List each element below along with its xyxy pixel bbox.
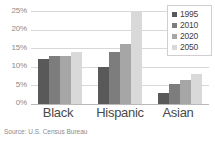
- legend-swatch-icon: [172, 23, 177, 28]
- bar: [98, 67, 109, 104]
- bar-chart: 25% 20% 15% 10% 5% 0% Black Hispanic Asi…: [0, 0, 215, 144]
- legend: 1995201020202050: [167, 5, 212, 56]
- legend-label: 2050: [180, 43, 198, 52]
- legend-swatch-icon: [172, 12, 177, 17]
- bar-group: [94, 11, 146, 104]
- category-label-black: Black: [27, 106, 89, 120]
- y-tick-label: 15%: [1, 44, 27, 52]
- legend-swatch-icon: [172, 45, 177, 50]
- bar: [158, 93, 169, 104]
- y-tick-label: 20%: [1, 25, 27, 33]
- bar: [109, 52, 120, 104]
- y-tick-label: 5%: [1, 81, 27, 89]
- legend-label: 2010: [180, 21, 198, 30]
- bar: [169, 84, 180, 104]
- bar: [60, 56, 71, 104]
- source-note: Source: U.S. Census Bureau: [4, 128, 87, 136]
- legend-label: 2020: [180, 32, 198, 41]
- legend-item[interactable]: 2050: [172, 42, 206, 52]
- bar-group: [34, 11, 86, 104]
- y-tick-label: 10%: [1, 62, 27, 70]
- category-label-asian: Asian: [148, 106, 208, 120]
- bar: [120, 44, 131, 104]
- bar: [71, 52, 82, 104]
- legend-item[interactable]: 2020: [172, 31, 206, 41]
- bar: [131, 11, 142, 104]
- legend-item[interactable]: 2010: [172, 20, 206, 30]
- bar: [191, 74, 202, 104]
- bar: [38, 59, 49, 104]
- legend-label: 1995: [180, 10, 198, 19]
- legend-item[interactable]: 1995: [172, 9, 206, 19]
- y-tick-label: 0%: [1, 99, 27, 107]
- bar: [180, 80, 191, 104]
- y-tick-label: 25%: [1, 7, 27, 15]
- legend-swatch-icon: [172, 34, 177, 39]
- category-label-hispanic: Hispanic: [87, 106, 153, 120]
- bar: [49, 56, 60, 104]
